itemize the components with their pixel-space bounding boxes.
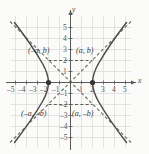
y-axis-label: y <box>72 6 75 14</box>
point-label-lower-right: (a, –b) <box>72 110 93 118</box>
x-tick-label-5: 5 <box>123 86 127 94</box>
point-label-lower-left: (–a, –b) <box>21 110 46 118</box>
x-tick-label--3: –3 <box>29 86 37 94</box>
y-tick-label--2: –2 <box>60 101 68 109</box>
point-label-upper-left: (–a, b) <box>28 47 49 55</box>
x-tick-label-1: 1 <box>79 86 83 94</box>
y-tick-label--1: –1 <box>60 90 68 98</box>
graph-canvas <box>0 0 149 154</box>
x-tick-label-2: 2 <box>90 86 94 94</box>
y-tick-label-3: 3 <box>63 46 67 54</box>
y-tick-label-1: 1 <box>63 68 67 76</box>
x-tick-label--1: –1 <box>52 86 60 94</box>
x-tick-label--2: –2 <box>40 86 48 94</box>
y-tick-label-2: 2 <box>63 57 67 65</box>
x-tick-label--4: –4 <box>18 86 26 94</box>
x-tick-label-4: 4 <box>112 86 116 94</box>
x-tick-label--5: –5 <box>7 86 15 94</box>
point-label-upper-right: (a, b) <box>76 47 93 55</box>
y-tick-label-4: 4 <box>63 35 67 43</box>
y-tick-label--4: –4 <box>60 123 68 131</box>
x-axis-label: x <box>138 77 141 85</box>
y-tick-label--5: –5 <box>60 134 68 142</box>
x-tick-label-3: 3 <box>101 86 105 94</box>
y-tick-label-5: 5 <box>63 24 67 32</box>
hyperbola-graph-figure: –5 –4 –3 –2 –1 1 2 3 4 5 5 4 3 2 1 –1 –2… <box>0 0 149 154</box>
y-tick-label--3: –3 <box>60 112 68 120</box>
